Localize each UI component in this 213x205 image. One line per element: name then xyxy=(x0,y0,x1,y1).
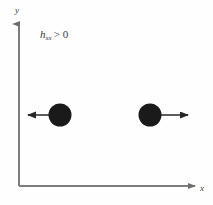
y-axis-label: y xyxy=(15,6,19,15)
diagram-canvas xyxy=(0,0,213,205)
annotation-subscript: xx xyxy=(46,34,52,42)
condition-annotation: hxx> 0 xyxy=(40,29,68,40)
physics-diagram-figure: y x hxx> 0 xyxy=(0,0,213,205)
annotation-value: 0 xyxy=(63,28,69,40)
right-particle-marker xyxy=(139,104,162,127)
left-particle-marker xyxy=(49,104,72,127)
annotation-relation: > xyxy=(54,28,60,40)
x-axis-label: x xyxy=(200,184,204,193)
annotation-symbol: h xyxy=(40,28,46,40)
